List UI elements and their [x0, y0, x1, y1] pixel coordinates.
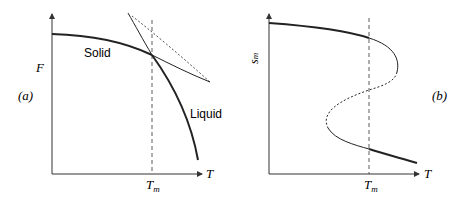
tm-tick: Tm	[364, 177, 378, 194]
liquid-extension	[128, 13, 152, 55]
liquid-branch-stable	[369, 149, 417, 163]
x-axis-label: T	[424, 166, 432, 181]
solid-branch-metastable	[369, 38, 398, 72]
solid-branch-stable	[269, 23, 369, 38]
panel-tag: (a)	[18, 88, 33, 103]
x-axis-label: T	[206, 166, 214, 181]
unstable-branch	[326, 72, 397, 128]
y-axis-label: F	[35, 60, 45, 75]
figure: F (a) Solid Liquid T Tm sm (b) T Tm	[0, 0, 467, 204]
panel-a: F (a) Solid Liquid T Tm	[18, 13, 222, 194]
panel-tag: (b)	[432, 88, 447, 103]
tm-tick: Tm	[146, 177, 160, 194]
liquid-label: Liquid	[190, 107, 222, 121]
dotted-curve	[132, 16, 210, 82]
liquid-branch-metastable	[328, 128, 369, 149]
y-axis-label: sm	[247, 52, 261, 64]
panel-b: sm (b) T Tm	[247, 14, 447, 194]
solid-label: Solid	[84, 46, 111, 60]
